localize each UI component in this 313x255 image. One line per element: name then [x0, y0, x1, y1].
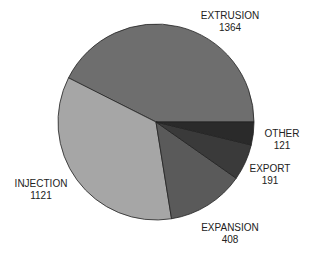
label-extrusion: EXTRUSION 1364 [190, 10, 270, 34]
label-export-value: 191 [245, 175, 295, 187]
label-injection-value: 1121 [6, 190, 76, 202]
label-export-name: EXPORT [245, 163, 295, 175]
label-other-name: OTHER [257, 128, 307, 140]
label-injection: INJECTION 1121 [6, 178, 76, 202]
label-other-value: 121 [257, 140, 307, 152]
label-expansion-value: 408 [190, 234, 270, 246]
label-other: OTHER 121 [257, 128, 307, 152]
label-injection-name: INJECTION [6, 178, 76, 190]
label-expansion-name: EXPANSION [190, 222, 270, 234]
label-extrusion-name: EXTRUSION [190, 10, 270, 22]
label-export: EXPORT 191 [245, 163, 295, 187]
label-expansion: EXPANSION 408 [190, 222, 270, 246]
label-extrusion-value: 1364 [190, 22, 270, 34]
